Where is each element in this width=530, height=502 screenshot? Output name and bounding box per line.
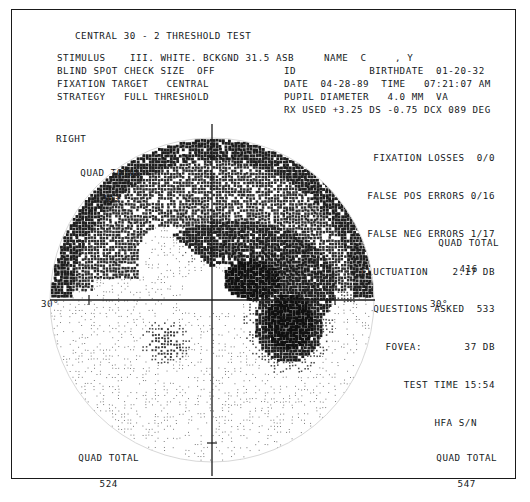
report-frame: CENTRAL 30 - 2 THRESHOLD TEST STIMULUS I…: [11, 9, 516, 479]
birthdate-value: 01-20-32: [436, 65, 485, 76]
reliability-value: 0/16: [471, 190, 495, 201]
stimulus-label: STIMULUS: [57, 52, 106, 63]
patient-name-line: NAME C: [324, 52, 367, 64]
strategy-line: STRATEGY FULL THRESHOLD: [57, 91, 209, 103]
grayscale-field-plot: [42, 114, 442, 482]
fixation-target-line: FIXATION TARGET CENTRAL: [57, 78, 209, 90]
fixation-target-label: FIXATION TARGET: [57, 78, 148, 89]
blind-spot-label: BLIND SPOT CHECK SIZE: [57, 65, 185, 76]
va-label: VA: [436, 91, 448, 102]
field-axes: [50, 124, 375, 476]
date-line: DATE 04-28-89 TIME 07:21:07 AM: [284, 78, 491, 90]
field-svg: [42, 114, 442, 482]
id-label: ID: [284, 65, 296, 76]
id-line: ID BIRTHDATE 01-20-32: [284, 65, 485, 77]
quad-total-label: QUAD TOTAL: [438, 237, 499, 248]
pupil-value: 4.0 MM: [387, 91, 424, 102]
quad-total-value: 416: [460, 263, 478, 274]
name-label: NAME: [324, 52, 348, 63]
blind-spot-line: BLIND SPOT CHECK SIZE OFF: [57, 65, 215, 77]
time-label: TIME: [381, 78, 405, 89]
date-value: 04-28-89: [321, 78, 370, 89]
time-value: 07:21:07 AM: [424, 78, 491, 89]
reliability-value: 15:54: [465, 379, 495, 390]
blind-spot-value: OFF: [197, 65, 215, 76]
patient-name-second: , Y: [395, 52, 413, 64]
name-value: C: [361, 52, 367, 63]
pupil-label: PUPIL DIAMETER: [284, 91, 369, 102]
reliability-value: 0/0: [477, 152, 495, 163]
quad-total-value: 547: [458, 478, 476, 489]
strategy-value: FULL THRESHOLD: [124, 91, 209, 102]
stimulus-line: STIMULUS III. WHITE. BCKGND 31.5 ASB: [57, 52, 294, 64]
date-label: DATE: [284, 78, 308, 89]
reliability-value: 37 DB: [465, 341, 495, 352]
pupil-line: PUPIL DIAMETER 4.0 MM VA: [284, 91, 448, 103]
stimulus-value: III. WHITE. BCKGND 31.5 ASB: [130, 52, 294, 63]
birthdate-label: BIRTHDATE: [369, 65, 424, 76]
strategy-label: STRATEGY: [57, 91, 106, 102]
fixation-target-value: CENTRAL: [166, 78, 209, 89]
reliability-value: 533: [477, 303, 495, 314]
page-title: CENTRAL 30 - 2 THRESHOLD TEST: [75, 30, 251, 42]
quad-total-label: QUAD TOTAL: [436, 452, 497, 463]
